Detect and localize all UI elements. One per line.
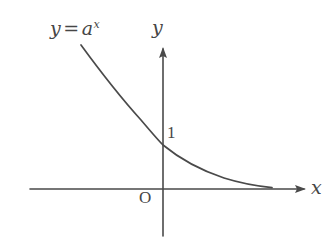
y-intercept-label: 1	[167, 124, 176, 141]
equation-base: y	[50, 17, 61, 39]
curve-equation-label: y=ax	[50, 19, 100, 38]
y-axis-label: y	[152, 18, 163, 37]
x-axis-label: x	[311, 178, 322, 197]
origin-label: O	[139, 189, 151, 206]
equation-mantissa: a	[82, 17, 94, 39]
equation-equals-sign: =	[63, 17, 79, 39]
equation-exponent: x	[93, 18, 100, 31]
exponential-graph-figure: y=ax y x O 1	[0, 0, 335, 246]
exponential-curve	[81, 45, 272, 188]
